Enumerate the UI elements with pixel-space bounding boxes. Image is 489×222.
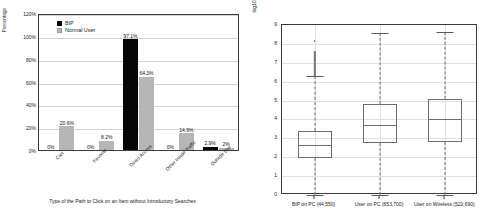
box-plot-whisker-lower	[314, 158, 315, 195]
bar-normal-user: 20.6%	[59, 126, 74, 150]
bar-group: 0%20.6%	[39, 15, 79, 150]
bar-bip: 97.1%	[123, 39, 138, 150]
box-plot-x-label: User on PC (653,700)	[355, 201, 404, 207]
box-plot-box	[363, 104, 397, 143]
bar-value-label: 20.6%	[60, 120, 74, 126]
box-plot-median	[298, 145, 332, 146]
bar-chart-y-axis-label: Percentage	[2, 0, 7, 55]
bar-chart-y-tick: 20%	[12, 125, 36, 131]
bar-value-label: 64.3%	[139, 70, 153, 76]
bar-group: 0%8.2%	[79, 15, 119, 150]
bar-value-label: 14.9%	[179, 127, 193, 133]
box-plot-y-tick: 8	[257, 40, 277, 46]
box-plot-y-tick: 2	[257, 153, 277, 159]
box-plot-y-tick: 3	[257, 134, 277, 140]
box-plot-whisker-cap-upper	[371, 33, 388, 34]
bar-chart-y-tick: 0%	[12, 148, 36, 154]
box-plot-y-tick: 1	[257, 172, 277, 178]
box-plot-group	[347, 25, 412, 193]
box-plot-group	[413, 25, 478, 193]
box-plot-y-tick: 9	[257, 21, 277, 27]
box-plot-x-tick	[313, 196, 314, 199]
box-plot-outlier	[314, 40, 316, 42]
box-plot-y-tick: 4	[257, 115, 277, 121]
box-plot-x-label: User on Wireless (522,690)	[414, 201, 475, 207]
bar-chart-figure: Percentage 0%20%40%60%80%100%120% BIP No…	[0, 0, 245, 222]
bar-group: 0%14.9%	[158, 15, 198, 150]
box-plot-median	[363, 125, 397, 126]
bar-chart-x-category: Cart	[38, 152, 78, 194]
box-plot-whisker-lower	[379, 143, 380, 195]
bar-normal-user: 64.3%	[139, 77, 154, 150]
bar-value-label: 0%	[47, 144, 54, 150]
figure-panel: Percentage 0%20%40%60%80%100%120% BIP No…	[0, 0, 489, 222]
bar-chart-plot-area: BIP Normal User 0%20.6%0%8.2%97.1%64.3%0…	[38, 14, 239, 151]
box-plot-outlier-cloud	[313, 51, 315, 76]
box-plot-y-tick: 6	[257, 78, 277, 84]
box-plot-x-tick	[444, 196, 445, 199]
box-plot-y-axis-ticks: 0123456789	[255, 0, 277, 222]
box-plot-y-tick: 5	[257, 97, 277, 103]
box-plot-figure: log10( Number of the Items Returned for …	[245, 0, 489, 222]
bar-chart-x-category: Outside Site	[199, 152, 239, 194]
bar-value-label: 2.9%	[204, 140, 215, 146]
box-plot-whisker-upper	[445, 32, 446, 99]
bar-bip: 2.9%	[203, 147, 218, 150]
box-plot-plot-area	[281, 24, 477, 194]
bar-chart-x-axis-title: Type of the Path to Click on an Item wit…	[0, 198, 245, 204]
box-plot-x-label: BIP on PC (44,550)	[292, 201, 335, 207]
box-plot-whisker-upper	[379, 33, 380, 105]
bar-value-label: 0%	[87, 144, 94, 150]
box-plot-whisker-lower	[445, 142, 446, 195]
bar-chart-y-tick: 100%	[12, 34, 36, 40]
box-plot-whisker-upper	[314, 76, 315, 131]
box-plot-whisker-cap-upper	[306, 76, 323, 77]
bar-chart-y-tick: 60%	[12, 80, 36, 86]
bar-chart-y-tick: 120%	[12, 11, 36, 17]
box-plot-x-tick	[379, 196, 380, 199]
bar-chart-x-category: Other Inside Traffic	[159, 152, 199, 194]
bar-chart-y-axis-ticks: 0%20%40%60%80%100%120%	[8, 0, 36, 222]
bar-group: 97.1%64.3%	[119, 15, 159, 150]
bar-chart-x-category: Direct Access	[118, 152, 158, 194]
box-plot-whisker-cap-upper	[437, 32, 454, 33]
bar-value-label: 97.1%	[123, 33, 137, 39]
box-plot-x-axis-labels: BIP on PC (44,550)User on PC (653,700)Us…	[281, 196, 477, 212]
bar-chart-y-tick: 40%	[12, 102, 36, 108]
bar-chart-bars: 0%20.6%0%8.2%97.1%64.3%0%14.9%2.9%2%	[39, 15, 238, 150]
box-plot-y-tick: 7	[257, 59, 277, 65]
box-plot-median	[428, 119, 462, 120]
bar-chart-x-axis-categories: CartFavoriteDirect AccessOther Inside Tr…	[38, 152, 239, 194]
bar-chart-y-tick: 80%	[12, 57, 36, 63]
box-plot-y-tick: 0	[257, 191, 277, 197]
box-plot-group	[282, 25, 347, 193]
bar-group: 2.9%2%	[198, 15, 238, 150]
bar-chart-x-category-label: Cart	[55, 151, 65, 161]
bar-value-label: 0%	[167, 144, 174, 150]
bar-value-label: 8.2%	[101, 134, 112, 140]
bar-chart-x-category: Favorite	[78, 152, 118, 194]
